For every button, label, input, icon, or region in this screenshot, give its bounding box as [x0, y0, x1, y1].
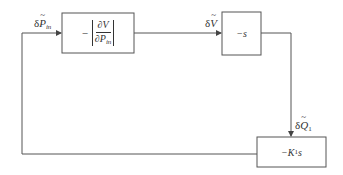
block3-label-prefix: −K — [281, 147, 294, 158]
den-subscript: in — [106, 38, 111, 46]
p-symbol: P — [39, 18, 46, 29]
block3-label-suffix: s — [298, 147, 302, 158]
block3-content: −K1s — [257, 137, 326, 167]
q-symbol: Q — [300, 120, 308, 131]
q-subscript: 1 — [308, 125, 312, 133]
den-main: ∂P — [95, 33, 106, 44]
fraction-numerator: ∂V — [96, 20, 111, 33]
signal-label-q1: δQ1 — [295, 120, 312, 133]
signal-line-q1 — [261, 33, 291, 136]
block2-label: −s — [236, 28, 247, 39]
block2-content: −s — [222, 12, 261, 55]
signal-label-p-in: δPin — [34, 18, 51, 31]
partial-fraction: ∂V ∂Pin — [95, 20, 112, 46]
absolute-value: ∂V ∂Pin — [92, 20, 115, 46]
block1-content: − ∂V ∂Pin — [62, 13, 134, 53]
minus-sign: − — [82, 27, 88, 39]
v-symbol: V — [210, 18, 217, 29]
signal-label-v: δV — [205, 18, 217, 29]
fraction-denominator: ∂Pin — [95, 33, 112, 46]
p-subscript: in — [46, 23, 51, 31]
